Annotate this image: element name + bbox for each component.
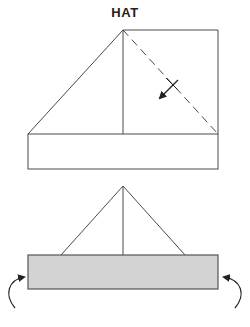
triangle-right-edge bbox=[123, 186, 185, 255]
left-triangle-edge bbox=[28, 30, 123, 134]
triangle-left-edge bbox=[61, 186, 123, 255]
bottom-band bbox=[28, 134, 218, 169]
hat-folding-diagram bbox=[0, 0, 250, 327]
right-curved-arrow-icon bbox=[224, 277, 241, 308]
step-1-figure bbox=[28, 30, 218, 169]
left-curved-arrow-icon bbox=[9, 277, 24, 308]
fold-arrow-icon bbox=[160, 78, 178, 98]
shaded-band bbox=[28, 255, 218, 289]
step-2-figure bbox=[28, 186, 218, 289]
